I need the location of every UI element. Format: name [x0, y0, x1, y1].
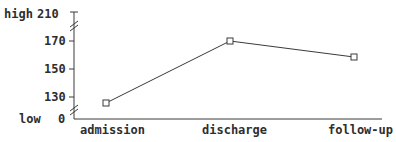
y-tick-label-170: 170 — [44, 34, 66, 48]
marker-follow-up — [351, 54, 357, 60]
line-chart: high 210 170 150 130 low 0 admission dis… — [0, 0, 396, 142]
y-extreme-high: high — [4, 7, 33, 21]
marker-admission — [103, 100, 109, 106]
y-tick-label-0: 0 — [58, 112, 65, 126]
marker-discharge — [227, 38, 233, 44]
x-category-discharge: discharge — [202, 123, 267, 137]
y-tick-label-210: 210 — [37, 7, 59, 21]
series-line — [106, 41, 354, 103]
x-category-admission: admission — [80, 123, 145, 137]
y-tick-label-130: 130 — [44, 90, 66, 104]
x-category-follow-up: follow-up — [328, 123, 393, 137]
y-tick-label-150: 150 — [44, 62, 66, 76]
y-extreme-low: low — [19, 112, 41, 126]
